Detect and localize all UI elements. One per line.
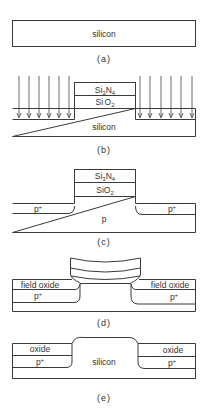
arrow-down-icon <box>179 76 183 118</box>
p-plus-right-label: p+ <box>168 358 177 368</box>
arrow-down-icon <box>47 76 51 118</box>
nitride-label: Si3N4 <box>95 171 116 182</box>
p-plus-left-label: p+ <box>36 357 45 367</box>
implant-arrows-left <box>17 76 71 118</box>
panel-b: Si3N4 SiO2 silicon (b) <box>13 76 196 155</box>
panel-d: field oxide field oxide p+ p+ (d) <box>13 258 196 328</box>
arrow-down-icon <box>17 76 21 118</box>
nitride-label: Si3N4 <box>95 85 116 96</box>
arrow-down-icon <box>138 76 142 118</box>
oxide-label: SiO2 <box>95 97 115 108</box>
arrow-down-icon <box>27 76 31 118</box>
field-oxide-right-label: field oxide <box>151 280 190 290</box>
silicon-label: silicon <box>92 357 116 367</box>
p-plus-right-boundary <box>136 206 196 215</box>
arrow-down-icon <box>57 76 61 118</box>
caption-b: (b) <box>97 145 111 155</box>
silicon-label: silicon <box>92 122 116 132</box>
field-oxide-left-label: field oxide <box>21 280 60 290</box>
p-plus-left-boundary <box>13 206 75 214</box>
nitride-bowed-mid <box>71 268 141 272</box>
panel-e: oxide oxide p+ p+ silicon (e) <box>13 337 196 403</box>
implanted-region-boundary <box>13 109 196 120</box>
oxide-label: SiO2 <box>96 185 114 196</box>
arrow-down-icon <box>190 76 194 118</box>
p-body-label: p <box>102 214 107 224</box>
caption-c: (c) <box>97 237 111 247</box>
p-plus-right-label: p+ <box>170 292 179 302</box>
panel-a: silicon (a) <box>13 21 196 65</box>
silicon-label: silicon <box>92 29 116 39</box>
panel-c: Si3N4 SiO2 p+ p+ p (c) <box>13 170 196 248</box>
arrow-down-icon <box>169 76 173 118</box>
arrow-down-icon <box>148 76 152 118</box>
caption-d: (d) <box>97 318 111 328</box>
implant-arrows-right <box>138 76 194 118</box>
oxide-right-label: oxide <box>163 345 184 355</box>
arrow-down-icon <box>67 76 71 118</box>
caption-e: (e) <box>97 393 111 403</box>
caption-a: (a) <box>97 54 111 64</box>
p-plus-right-label: p+ <box>168 204 177 214</box>
p-plus-left-label: p+ <box>34 204 43 214</box>
arrow-down-icon <box>37 76 41 118</box>
p-plus-left-label: p+ <box>34 291 43 301</box>
oxide-left-label: oxide <box>30 344 51 354</box>
locos-process-diagram: silicon (a) Si3N4 SiO2 silicon <box>0 0 211 413</box>
arrow-down-icon <box>159 76 163 118</box>
oxide-bowed-bottom <box>71 276 140 280</box>
nitride-bowed-top <box>71 258 141 262</box>
